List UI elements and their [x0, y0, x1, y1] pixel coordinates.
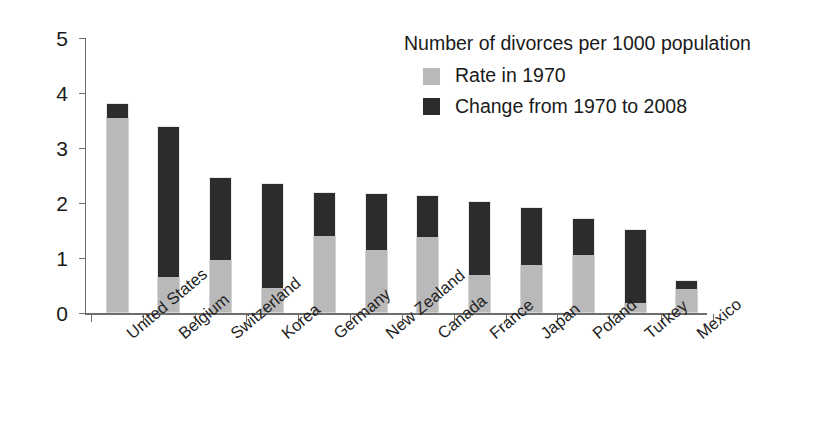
- bar-segment-change-1970-2008: [416, 195, 439, 237]
- y-tick-label: 0: [0, 303, 68, 324]
- y-tick-label: 5: [0, 28, 68, 49]
- bar-segment-change-1970-2008: [157, 126, 180, 277]
- bar-segment-change-1970-2008: [261, 183, 284, 289]
- bar-segment-change-1970-2008: [468, 201, 491, 275]
- x-category-label: Turkey: [641, 328, 653, 343]
- bar-segment-change-1970-2008: [365, 193, 388, 250]
- y-tick-label: 3: [0, 138, 68, 159]
- x-category-label: United States: [123, 328, 135, 343]
- y-tick-label: 4: [0, 83, 68, 104]
- bar-segment-rate-1970: [106, 118, 129, 313]
- x-category-label: New Zealand: [382, 328, 394, 343]
- dark-gray-swatch-icon: [423, 98, 440, 115]
- bar-segment-change-1970-2008: [313, 192, 336, 236]
- legend-title: Number of divorces per 1000 population: [404, 33, 804, 54]
- bar-segment-change-1970-2008: [209, 177, 232, 260]
- x-category-label: Korea: [278, 328, 290, 343]
- x-category-label: France: [485, 328, 497, 343]
- y-tick-mark: [79, 148, 86, 149]
- bar-united-states: [106, 103, 129, 313]
- bar-segment-change-1970-2008: [624, 229, 647, 303]
- x-category-label: Mexico: [693, 328, 705, 343]
- chart-legend: Number of divorces per 1000 population R…: [404, 33, 804, 127]
- legend-item-change-1970-2008: Change from 1970 to 2008: [423, 97, 804, 117]
- x-tick-mark: [91, 314, 92, 322]
- x-category-label: Germany: [330, 328, 342, 343]
- light-gray-swatch-icon: [423, 68, 440, 85]
- y-tick-label: 1: [0, 248, 68, 269]
- y-tick-label: 2: [0, 193, 68, 214]
- y-tick-mark: [79, 258, 86, 259]
- legend-label-change-1970-2008: Change from 1970 to 2008: [455, 97, 687, 117]
- bar-germany: [313, 192, 336, 313]
- bar-segment-change-1970-2008: [675, 280, 698, 289]
- y-tick-mark: [79, 93, 86, 94]
- y-tick-mark: [79, 38, 86, 39]
- y-tick-mark: [79, 203, 86, 204]
- bar-segment-change-1970-2008: [106, 103, 129, 118]
- x-category-label: Belgium: [175, 328, 187, 343]
- legend-label-rate-1970: Rate in 1970: [455, 66, 566, 86]
- x-category-label: Japan: [537, 328, 549, 343]
- x-category-label: Switzerland: [226, 328, 238, 343]
- bar-segment-change-1970-2008: [520, 207, 543, 265]
- bar-poland: [572, 218, 595, 313]
- legend-item-rate-1970: Rate in 1970: [423, 66, 804, 86]
- divorce-rate-stacked-bar-chart: 012345 United StatesBelgiumSwitzerlandKo…: [0, 0, 814, 425]
- bar-segment-change-1970-2008: [572, 218, 595, 255]
- x-category-label: Canada: [434, 328, 446, 343]
- x-category-label: Poland: [589, 328, 601, 343]
- bar-segment-rate-1970: [313, 236, 336, 313]
